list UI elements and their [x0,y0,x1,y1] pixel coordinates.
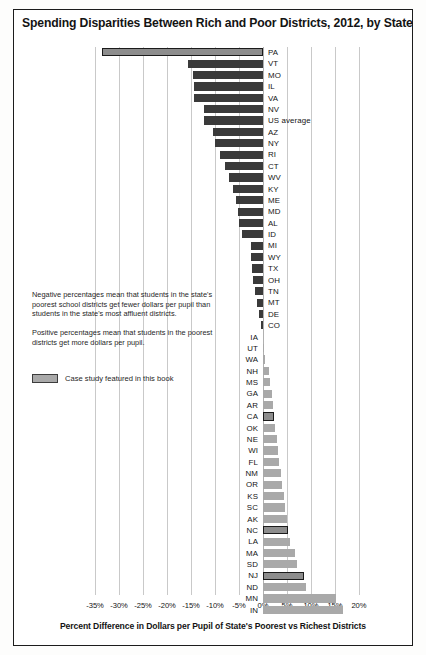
bar-tx [252,264,263,272]
chart-page: Spending Disparities Between Rich and Po… [0,0,426,655]
chart-row: NC [0,525,426,536]
bar-ar [263,401,273,409]
bar-mn [263,594,336,602]
chart-row: MI [0,240,426,251]
category-label-md: MD [268,206,280,217]
category-label-la: LA [0,536,258,547]
chart-row: MD [0,206,426,217]
chart-row: WA [0,354,426,365]
chart-row: CA [0,411,426,422]
bar-mo [193,71,263,79]
bar-ks [263,492,284,500]
chart-row: SD [0,559,426,570]
bar-nm [263,469,281,477]
category-label-de: DE [268,309,279,320]
bar-me [236,196,263,204]
category-label-nv: NV [268,104,279,115]
bar-ne [263,435,277,443]
chart-row: WY [0,252,426,263]
bar-ak [263,515,287,523]
bar-nh [263,367,269,375]
category-label-sd: SD [0,559,258,570]
chart-row: NM [0,468,426,479]
category-label-tn: TN [268,286,279,297]
chart-row: NV [0,104,426,115]
chart-row: ND [0,582,426,593]
chart-row: TX [0,263,426,274]
category-label-oh: OH [268,275,280,286]
chart-row: NJ [0,570,426,581]
category-label-ma: MA [0,548,258,559]
category-label-az: AZ [268,127,278,138]
bar-ma [263,549,295,557]
bar-ok [263,424,275,432]
bar-ms [263,378,270,386]
category-label-ky: KY [268,184,279,195]
chart-row: KY [0,184,426,195]
category-label-nm: NM [0,468,258,479]
legend: Case study featured in this book [32,374,174,383]
bar-ny [215,139,263,147]
category-label-pa: PA [268,47,278,58]
bar-or [263,481,282,489]
chart-row: FL [0,457,426,468]
chart-row: NE [0,434,426,445]
chart-row: PA [0,47,426,58]
category-label-co: CO [268,320,280,331]
chart-row: MN [0,593,426,604]
legend-label-case-study: Case study featured in this book [65,374,174,383]
category-label-ks: KS [0,491,258,502]
bar-wy [251,253,263,261]
bar-sd [263,560,297,568]
bar-vt [188,60,263,68]
category-label-il: IL [268,81,275,92]
bar-mt [257,299,263,307]
category-label-ne: NE [0,434,258,445]
category-label-wy: WY [268,252,281,263]
bar-fl [263,458,279,466]
bar-id [242,230,263,238]
chart-row: MO [0,70,426,81]
bar-in [263,606,343,614]
category-label-ga: GA [0,388,258,399]
chart-row: GA [0,388,426,399]
chart-row: AL [0,218,426,229]
category-label-mo: MO [268,70,281,81]
chart-row: AZ [0,127,426,138]
bar-pa [102,48,263,56]
x-axis-label: Percent Difference in Dollars per Pupil … [0,621,426,631]
chart-row: KS [0,491,426,502]
chart-row: MA [0,548,426,559]
bar-wa [263,355,265,363]
chart-row: IL [0,81,426,92]
category-label-nc: NC [0,525,258,536]
bar-nv [204,105,263,113]
chart-row: VA [0,93,426,104]
bar-al [239,219,263,227]
category-label-or: OR [0,479,258,490]
category-label-mn: MN [0,593,258,604]
category-label-va: VA [268,93,278,104]
chart-row: CT [0,161,426,172]
annotation-positive: Positive percentages mean that students … [32,328,232,347]
category-label-wv: WV [268,172,281,183]
chart-row: IN [0,605,426,616]
bar-us-average [204,116,263,124]
chart-row: US average [0,115,426,126]
category-label-sc: SC [0,502,258,513]
bar-de [259,310,263,318]
bar-nd [263,583,306,591]
bar-il [194,82,263,90]
chart-row: AR [0,400,426,411]
category-label-ct: CT [268,161,279,172]
category-label-ny: NY [268,138,279,149]
chart-row: LA [0,536,426,547]
chart-row: OK [0,423,426,434]
chart-row: VT [0,58,426,69]
category-label-mi: MI [268,240,277,251]
bar-mi [251,242,263,250]
chart-row: ID [0,229,426,240]
category-label-wa: WA [0,354,258,365]
category-label-al: AL [268,218,278,229]
category-label-ca: CA [0,411,258,422]
